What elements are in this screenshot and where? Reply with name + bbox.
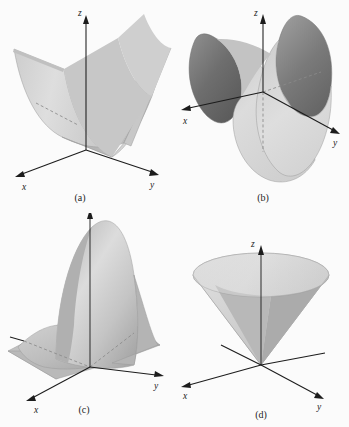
panel-caption-c: (c)	[78, 404, 89, 416]
panel-caption-b: (b)	[257, 192, 269, 204]
axis-y-line	[261, 365, 317, 395]
panel-d-cone: z x y (d)	[175, 213, 349, 426]
panel-c-gaussian-bump: z x y (c)	[0, 213, 174, 426]
axis-z-arrowhead	[87, 213, 93, 219]
panel-b-hyperbolic-paraboloid: z x y (b)	[175, 0, 349, 213]
axis-x-arrowhead	[15, 171, 25, 177]
axis-y-line	[86, 150, 152, 172]
axis-x-arrowhead	[26, 395, 36, 401]
figure-sheet: z x y (a)	[0, 0, 349, 427]
axis-y-arrowhead	[330, 127, 340, 134]
axis-label-z: z	[253, 8, 258, 18]
panel-a-parabolic-cylinder: z x y (a)	[0, 0, 174, 213]
axis-z-arrowhead	[258, 245, 264, 255]
axis-label-x: x	[182, 116, 188, 126]
axis-label-x: x	[33, 405, 39, 415]
axis-z-arrowhead	[260, 14, 266, 24]
axis-label-x: x	[21, 182, 27, 192]
panel-caption-d: (d)	[255, 409, 267, 421]
axis-label-z: z	[80, 213, 85, 215]
axis-y-arrowhead	[149, 169, 159, 176]
axis-x-rear-stub	[261, 353, 325, 365]
axis-y-arrowhead	[314, 392, 324, 399]
axis-x-arrowhead	[181, 382, 191, 388]
axis-label-y: y	[153, 381, 159, 391]
axis-x-arrowhead	[181, 105, 191, 111]
axis-x-line	[22, 150, 86, 174]
axis-label-z: z	[250, 239, 255, 249]
axis-label-y: y	[149, 180, 155, 190]
axis-label-x: x	[182, 391, 188, 401]
axis-y-line	[90, 367, 156, 375]
panel-caption-a: (a)	[74, 192, 85, 204]
axis-x-line	[189, 365, 261, 385]
axis-label-y: y	[332, 138, 338, 148]
axis-x-rear-stub	[10, 337, 24, 341]
axis-z-arrowhead	[83, 15, 89, 24]
axis-y-arrowhead	[154, 371, 164, 377]
axis-label-z: z	[77, 8, 82, 18]
axis-label-y: y	[316, 402, 322, 412]
